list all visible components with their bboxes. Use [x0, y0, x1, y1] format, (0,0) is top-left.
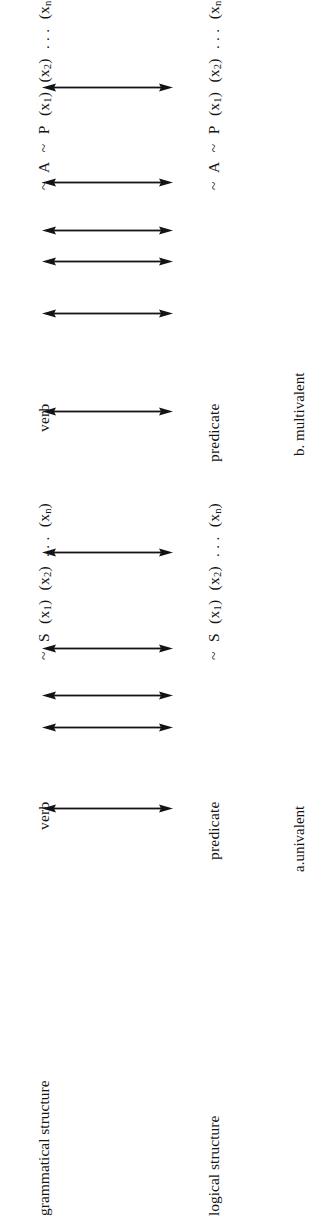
- correspondence-arrow: [42, 255, 173, 268]
- panel-caption-univalent: a.univalent: [292, 806, 307, 872]
- token-letter-s: S: [35, 633, 52, 642]
- correspondence-arrow: [42, 802, 173, 815]
- multivalent-logical-lead: predicate: [206, 403, 222, 462]
- figure-canvas: ~ A ~ P (x1) (x2) . . . (xn) verb ~ A ~ …: [0, 0, 336, 1226]
- token-ellipsis: . . .: [35, 29, 52, 49]
- univalent-grammatical-expression: ~ S (x1) (x2) . . . (xn): [36, 503, 54, 660]
- correspondence-arrow: [42, 689, 173, 702]
- token-ellipsis: . . .: [205, 537, 222, 557]
- token-letter-a: A: [35, 162, 52, 173]
- univalent-logical-expression: ~ S (x1) (x2) . . . (xn): [206, 503, 224, 660]
- multivalent-logical-expression: ~ A ~ P (x1) (x2) . . . (xn): [206, 0, 224, 190]
- token-tilde: ~: [205, 651, 222, 660]
- correspondence-arrow: [42, 642, 173, 655]
- correspondence-arrow: [42, 307, 173, 320]
- axis-label-logical-structure: logical structure: [206, 1116, 222, 1216]
- token-xn: (xn): [205, 503, 222, 527]
- token-letter-p: P: [205, 125, 222, 134]
- token-tilde: ~: [205, 144, 222, 153]
- correspondence-arrow: [42, 405, 173, 418]
- token-tilde: ~: [205, 181, 222, 190]
- token-x2: (x2): [35, 566, 52, 590]
- correspondence-arrow: [42, 224, 173, 237]
- token-x2: (x2): [205, 58, 222, 82]
- correspondence-arrow: [42, 546, 173, 559]
- token-x1: (x1): [35, 600, 52, 624]
- token-x1: (x1): [205, 600, 222, 624]
- axis-label-grammatical-structure: grammatical structure: [36, 1080, 52, 1216]
- token-ellipsis: . . .: [205, 29, 222, 49]
- token-x1: (x1): [205, 92, 222, 116]
- token-x1: (x1): [35, 92, 52, 116]
- token-letter-s: S: [205, 633, 222, 642]
- token-tilde: ~: [35, 144, 52, 153]
- univalent-logical-lead: predicate: [206, 801, 222, 860]
- panel-caption-multivalent: b. multivalent: [292, 373, 307, 456]
- multivalent-grammatical-expression: ~ A ~ P (x1) (x2) . . . (xn): [36, 0, 54, 190]
- correspondence-arrow: [42, 81, 173, 94]
- token-x2: (x2): [205, 566, 222, 590]
- token-x2: (x2): [35, 58, 52, 82]
- correspondence-arrow: [42, 721, 173, 734]
- token-xn: (xn): [35, 0, 52, 19]
- token-xn: (xn): [205, 0, 222, 19]
- correspondence-arrow: [42, 176, 173, 189]
- token-letter-a: A: [205, 162, 222, 173]
- token-xn: (xn): [35, 503, 52, 527]
- token-letter-p: P: [35, 125, 52, 134]
